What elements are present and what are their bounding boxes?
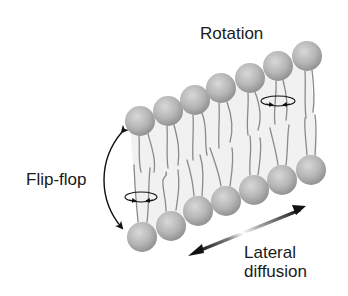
lateral-diffusion-label-line2: diffusion	[244, 262, 307, 281]
flip-flop-arrow-icon	[104, 132, 122, 228]
lipid-head	[263, 51, 293, 81]
lateral-diffusion-label: Lateral diffusion	[244, 243, 307, 281]
lipid-head	[292, 41, 322, 71]
lateral-diffusion-label-line1: Lateral	[244, 243, 307, 262]
lipid-head	[235, 63, 265, 93]
lipid-head	[180, 85, 210, 115]
lipid-head	[296, 155, 326, 185]
lipid-head	[211, 186, 241, 216]
lipid-head	[127, 222, 157, 252]
lipid-head	[267, 165, 297, 195]
lipid-head	[183, 196, 213, 226]
lipid-head	[239, 175, 269, 205]
lipid-head	[206, 73, 236, 103]
flip-flop-label: Flip-flop	[26, 171, 86, 188]
lipid-head	[156, 211, 186, 241]
rotation-label: Rotation	[200, 25, 263, 42]
lipid-head	[153, 96, 183, 126]
lipid-head	[125, 106, 155, 136]
